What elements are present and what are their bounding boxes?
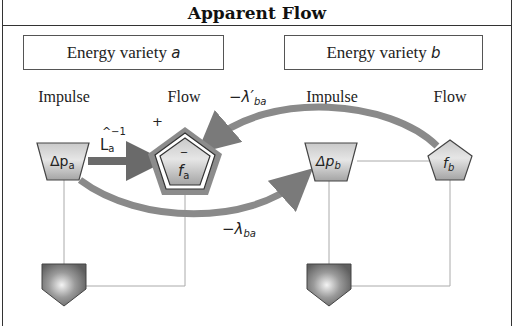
svg-text:La: La (100, 136, 115, 154)
ground-node-a (42, 264, 86, 306)
impulse-node-b: Δpb (305, 143, 357, 181)
apparent-flow-node-a: + ‾ fa (148, 114, 222, 195)
svg-text:−λ′ba: −λ′ba (229, 88, 266, 107)
lambda-prime-ba-label: −λ′ba (229, 88, 266, 107)
inverse-inductance-label: ^ La −1 (100, 125, 126, 154)
lambda-prime-ba-arrow (210, 107, 437, 146)
svg-text:−1: −1 (111, 126, 126, 137)
lambda-ba-label: −λba (222, 220, 256, 239)
diagram-canvas: Δpa + ‾ fa Δpb fb ^ La −1 −λ′ba −λba (0, 0, 529, 326)
ground-node-b (307, 264, 351, 306)
svg-text:−λba: −λba (222, 220, 256, 239)
impulse-node-a: Δpa (37, 143, 89, 180)
connector-lines (64, 161, 450, 286)
positive-sign: + (152, 114, 163, 129)
